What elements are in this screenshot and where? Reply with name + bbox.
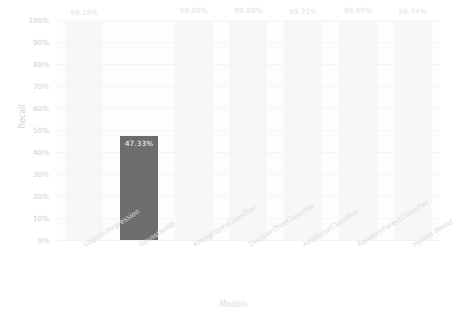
x-axis-tick-label: DecisionTreeClassifier [247,242,251,249]
x-axis-tick-label: RandomForestClassifier [356,242,360,249]
bar-slot: 99.89% [166,20,221,240]
bar-value-label: 47.33% [125,139,153,148]
bar-slot: 99.19% [57,20,112,240]
chart-screenshot: 0%10%20%30%40%50%60%70%80%90%100% Recall… [0,0,467,333]
y-axis-tick-label: 40% [33,148,49,157]
bar-slot: 99.90% [331,20,386,240]
x-axis-tick-label: GaussianNB [137,242,141,249]
bar: 99.89% [175,20,213,240]
y-axis-tick-label: 100% [28,16,49,25]
bar-value-label: 99.74% [398,7,426,16]
y-axis-tick-label: 70% [33,82,49,91]
y-axis-title: Recall [18,87,27,147]
y-axis-tick-label: 20% [33,192,49,201]
y-axis-tick-label: 0% [38,236,49,245]
x-axis-title: Models [0,300,467,309]
bar-value-label: 99.72% [289,7,317,16]
bar-value-label: 99.19% [70,8,98,17]
y-axis-tick-label: 90% [33,38,49,47]
y-axis-tick-label: 30% [33,170,49,179]
bar: 99.90% [339,20,377,240]
x-axis-tick-label: AdaBoostClassifier [301,242,305,249]
bar: 47.33% [120,136,158,240]
y-axis-tick-label: 60% [33,104,49,113]
y-axis-tick-label: 50% [33,126,49,135]
y-axis-tick-label: 10% [33,214,49,223]
y-axis-tick-label: 80% [33,60,49,69]
bar-value-label: 99.90% [344,6,372,15]
bar-value-label: 99.89% [180,6,208,15]
bar-value-label: 99.86% [234,6,262,15]
x-axis-tick-label: Hybrid Model [411,242,415,249]
x-axis-tick-label: LogisticRegression [82,242,86,249]
bar-slot: 47.33% [112,20,167,240]
bar: 99.19% [65,22,103,240]
x-axis-tick-label: KNeighborsClassifier [192,242,196,249]
x-axis-tick-container: LogisticRegressionGaussianNBKNeighborsCl… [57,242,440,302]
